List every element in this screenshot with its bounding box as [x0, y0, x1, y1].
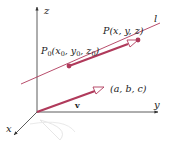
ground-shading-2 — [30, 122, 75, 132]
point-p0 — [67, 64, 72, 69]
line-l-label: l — [154, 13, 157, 24]
vector-v-label: v — [74, 100, 80, 110]
vector-components-label: (a, b, c) — [110, 83, 147, 94]
z-axis-label: z — [43, 5, 50, 16]
point-p — [136, 38, 141, 43]
line-in-space-diagram: z y x l P0(x0, y0, z0) P(x, y, z) v (a, … — [0, 0, 170, 147]
vector-v-arrowhead-hollow-icon — [93, 87, 104, 94]
y-axis-label: y — [153, 99, 160, 110]
point-p0-label: P0(x0, y0, z0) — [40, 45, 100, 58]
x-axis-label: x — [6, 123, 12, 134]
vector-v — [37, 91, 95, 112]
point-p-label: P(x, y, z) — [102, 25, 144, 36]
